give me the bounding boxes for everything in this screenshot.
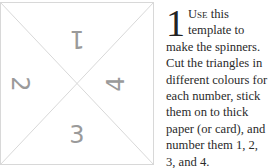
triangle-number-4: 4 <box>104 72 128 96</box>
triangle-number-1: 1 <box>65 27 89 51</box>
triangle-number-2: 2 <box>8 72 32 96</box>
spinner-template: 1 2 3 4 <box>0 2 154 165</box>
lead-word: Use <box>188 7 208 21</box>
triangle-number-3: 3 <box>65 123 89 147</box>
step-number: 1 <box>166 9 185 37</box>
instruction-text: 1Use this template to make the spinners.… <box>166 6 268 168</box>
